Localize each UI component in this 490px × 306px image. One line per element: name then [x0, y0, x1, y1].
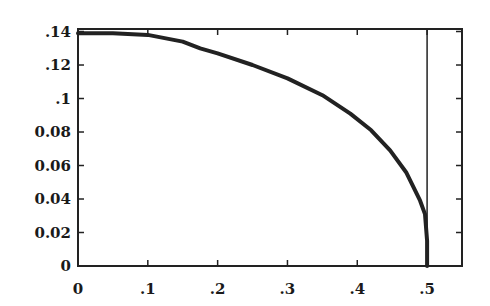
- y-tick-label: .14: [45, 23, 71, 41]
- chart: 0.1.2.3.4.5 00.020.040.060.08.1.12.14: [0, 0, 490, 306]
- y-tick-label: 0.04: [34, 190, 71, 208]
- x-tick-label: .5: [419, 280, 435, 298]
- y-tick-label: 0: [61, 257, 71, 275]
- plot-border: [78, 29, 462, 266]
- x-axis-tick-labels: 0.1.2.3.4.5: [73, 280, 435, 298]
- x-tick-label: .1: [140, 280, 156, 298]
- y-tick-label: 0.08: [34, 123, 71, 141]
- x-tick-label: .3: [280, 280, 296, 298]
- x-tick-label: .4: [349, 280, 365, 298]
- data-series: [78, 33, 427, 266]
- x-tick-label: 0: [73, 280, 83, 298]
- y-axis-tick-labels: 00.020.040.060.08.1.12.14: [34, 23, 71, 275]
- plot-frame: [78, 29, 462, 266]
- y-tick-label: 0.06: [34, 157, 71, 175]
- y-tick-label: 0.02: [34, 224, 71, 242]
- x-tick-label: .2: [210, 280, 226, 298]
- y-tick-label: .12: [45, 56, 71, 74]
- y-tick-label: .1: [55, 90, 71, 108]
- axis-ticks: [78, 29, 462, 266]
- series-line: [78, 33, 427, 266]
